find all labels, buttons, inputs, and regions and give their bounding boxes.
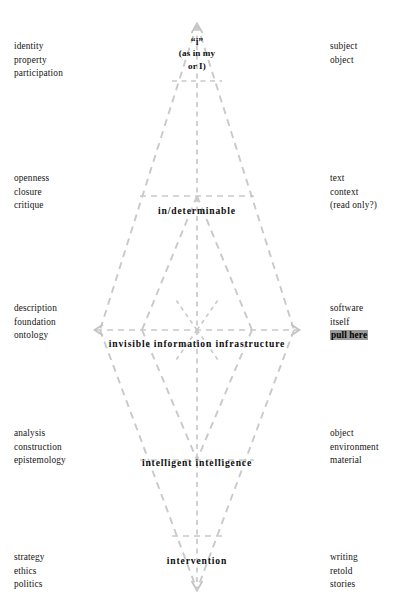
spoke-node-nw (176, 300, 197, 330)
arrow-up-top (192, 24, 203, 34)
node-label-infrastructure-wrap: invisible information infrastructure (0, 333, 394, 351)
node-label-intervention: intervention (167, 555, 227, 566)
node-label-indeterminable-wrap: in/determinable (0, 200, 394, 218)
node-label-indeterminable: in/determinable (158, 205, 236, 216)
node-label-intelligence-wrap: intelligent intelligence (0, 452, 394, 470)
node-label-intelligent-intelligence: intelligent intelligence (142, 457, 252, 468)
diagram-canvas: identity property participation subject … (0, 0, 394, 615)
apex-quoted-i: “i” (0, 37, 394, 47)
apex-line-or-i: or I) (0, 60, 394, 73)
arrow-down-bottom (192, 581, 203, 591)
term-text: text (330, 172, 394, 186)
term-politics: politics (14, 578, 134, 592)
term-openness: openness (14, 172, 134, 186)
term-software: software (330, 302, 394, 316)
term-description: description (14, 302, 134, 316)
apex-label-i: “i” (as in my or I) (0, 37, 394, 72)
term-stories: stories (330, 578, 394, 592)
term-closure: closure (14, 186, 134, 200)
spoke-node-ne (197, 300, 218, 330)
term-context: context (330, 186, 394, 200)
term-analysis: analysis (14, 427, 134, 441)
term-foundation: foundation (14, 316, 134, 330)
apex-line-as-in-my: (as in my (0, 47, 394, 60)
term-itself: itself (330, 316, 394, 330)
term-object-lower: object (330, 427, 394, 441)
node-label-intervention-wrap: intervention (0, 550, 394, 568)
node-label-invisible-information-infrastructure: invisible information infrastructure (109, 338, 285, 349)
